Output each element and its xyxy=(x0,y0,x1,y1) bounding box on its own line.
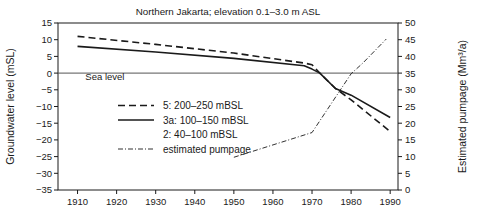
x-axis-tick-label: 1930 xyxy=(145,196,166,207)
sea-level-annotation: Sea level xyxy=(85,71,124,82)
x-axis-tick-label: 1920 xyxy=(106,196,127,207)
y2-axis-tick-label: 30 xyxy=(405,84,416,95)
chart-title: Northern Jakarta; elevation 0.1–3.0 m AS… xyxy=(136,6,321,17)
x-axis-tick-label: 1990 xyxy=(380,196,401,207)
y-axis-title: Groundwater level (mSL) xyxy=(4,48,16,165)
y2-axis-tick-label: 25 xyxy=(405,101,416,112)
groundwater-pumpage-chart: Northern Jakarta; elevation 0.1–3.0 m AS… xyxy=(0,0,481,222)
x-axis-tick-label: 1910 xyxy=(67,196,88,207)
y2-axis-tick-label: 15 xyxy=(405,134,416,145)
x-axis-tick-label: 1970 xyxy=(301,196,322,207)
y2-axis-tick-label: 40 xyxy=(405,51,416,62)
y2-axis-tick-label: 35 xyxy=(405,68,416,79)
x-axis-tick-label: 1980 xyxy=(341,196,362,207)
legend-label-1: 5: 200–250 mBSL xyxy=(163,100,243,111)
y-axis-tick-label: 0 xyxy=(47,68,52,79)
legend-label-2: 3a: 100–150 mBSL xyxy=(163,115,249,126)
legend-label-3: 2: 40–100 mBSL xyxy=(163,129,238,140)
y-axis-tick-label: −10 xyxy=(36,101,52,112)
y2-axis-tick-label: 50 xyxy=(405,17,416,28)
y2-axis-title: Estimated pumpage (Mm³/a) xyxy=(456,40,468,173)
y-axis-tick-label: −20 xyxy=(36,134,52,145)
y-axis-tick-label: 10 xyxy=(41,34,52,45)
y-axis-tick-label: 5 xyxy=(47,51,52,62)
y2-axis-tick-label: 20 xyxy=(405,118,416,129)
chart-container: Northern Jakarta; elevation 0.1–3.0 m AS… xyxy=(0,0,481,222)
y2-axis-tick-label: 10 xyxy=(405,151,416,162)
legend-label-4: estimated pumpage xyxy=(163,144,251,155)
x-axis-tick-label: 1950 xyxy=(223,196,244,207)
y-axis-tick-label: −35 xyxy=(36,184,52,195)
y-axis-tick-label: 15 xyxy=(41,17,52,28)
y-axis-tick-label: −5 xyxy=(41,84,52,95)
y-axis-tick-label: −15 xyxy=(36,118,52,129)
y2-axis-tick-label: 5 xyxy=(405,168,410,179)
y2-axis-tick-label: 0 xyxy=(405,184,410,195)
y-axis-tick-label: −30 xyxy=(36,168,52,179)
x-axis-tick-label: 1960 xyxy=(262,196,283,207)
y-axis-tick-label: −25 xyxy=(36,151,52,162)
y2-axis-tick-label: 45 xyxy=(405,34,416,45)
x-axis-tick-label: 1940 xyxy=(184,196,205,207)
